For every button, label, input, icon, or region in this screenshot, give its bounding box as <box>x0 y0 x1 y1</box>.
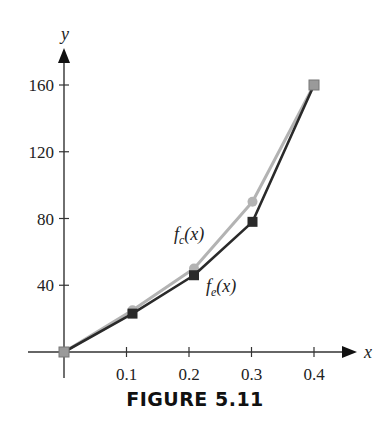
series-line-fc <box>64 85 314 352</box>
x-tick-label: 0.4 <box>303 365 325 384</box>
x-tick-label: 0.3 <box>241 365 262 384</box>
fc-label: fc(x) <box>174 224 204 247</box>
figure-caption: FIGURE 5.11 <box>0 388 390 410</box>
series-line-fe <box>64 85 314 352</box>
y-tick-label: 120 <box>29 143 55 162</box>
x-axis-label: x <box>363 342 372 362</box>
y-axis-arrow-icon <box>58 48 70 63</box>
y-tick-label: 80 <box>37 210 54 229</box>
axes: xy0.10.20.30.44080120160 <box>28 24 372 384</box>
x-axis-arrow-icon <box>342 346 357 358</box>
series-labels: fc(x)fe(x) <box>174 224 236 299</box>
circle-marker <box>248 197 258 207</box>
square-marker <box>59 347 69 357</box>
y-tick-label: 160 <box>29 76 55 95</box>
x-tick-label: 0.1 <box>116 365 137 384</box>
square-marker <box>309 80 319 90</box>
x-tick-label: 0.2 <box>178 365 199 384</box>
y-tick-label: 40 <box>37 276 54 295</box>
series-lines <box>59 80 319 357</box>
chart: xy0.10.20.30.44080120160 fc(x)fe(x) <box>0 0 390 385</box>
square-marker <box>248 217 258 227</box>
y-axis-label: y <box>59 24 69 44</box>
square-marker <box>189 270 199 280</box>
fe-label: fe(x) <box>206 276 236 299</box>
square-marker <box>128 309 138 319</box>
